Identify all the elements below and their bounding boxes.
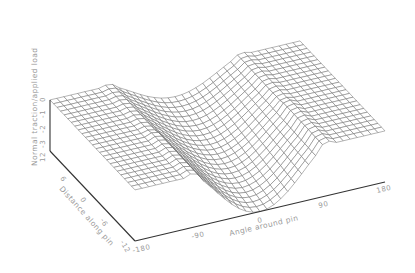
z-axis-title: Normal traction/applied load	[30, 48, 39, 166]
z-tick-2: -2	[39, 125, 47, 133]
surface-mesh	[50, 41, 385, 212]
z-tick-3: -3	[39, 140, 47, 148]
y-axis-title: Distance along pin	[58, 184, 116, 247]
x-tick-90: 90	[318, 200, 330, 210]
y-tick-6: 6	[58, 175, 67, 183]
z-tick-1: -1	[39, 110, 47, 118]
x-axis-title: Angle around pin	[228, 213, 299, 238]
x-tick-180: 180	[376, 184, 393, 195]
x-tick-minus90: -90	[191, 230, 206, 241]
x-tick-minus180: -180	[132, 243, 152, 255]
y-tick-minus12: -12	[118, 239, 132, 254]
surface-plot: 0 -1 -2 -3 12 Normal traction/applied lo…	[0, 0, 415, 273]
z-tick-0: 0	[39, 97, 47, 102]
y-tick-12: 12	[39, 152, 47, 162]
